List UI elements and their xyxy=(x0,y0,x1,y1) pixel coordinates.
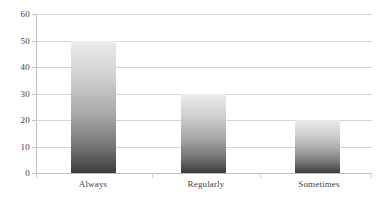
gridline-baseline xyxy=(36,173,372,174)
y-axis-labels: 60 50 40 30 20 10 0 xyxy=(0,0,30,207)
x-tick-mark xyxy=(152,173,153,178)
x-axis-label-always: Always xyxy=(57,180,129,190)
y-tick-label: 20 xyxy=(4,116,30,125)
y-tick-label: 10 xyxy=(4,143,30,152)
y-tick-label: 0 xyxy=(4,169,30,178)
x-axis-label-regularly: Regularly xyxy=(168,180,244,190)
x-tick-mark xyxy=(36,173,37,178)
bar-always xyxy=(71,41,116,174)
y-tick-label: 50 xyxy=(4,37,30,46)
x-tick-mark xyxy=(260,173,261,178)
y-tick-label: 30 xyxy=(4,90,30,99)
bar-regularly xyxy=(181,94,226,174)
x-axis-label-sometimes: Sometimes xyxy=(279,180,359,190)
bar-chart: 60 50 40 30 20 10 0 Always Regularly Som… xyxy=(0,0,390,207)
y-tick-label: 40 xyxy=(4,63,30,72)
gridline-60 xyxy=(36,14,372,15)
x-tick-mark xyxy=(371,173,372,178)
y-tick-label: 60 xyxy=(4,10,30,19)
bar-sometimes xyxy=(295,120,340,173)
plot-area xyxy=(36,14,372,173)
